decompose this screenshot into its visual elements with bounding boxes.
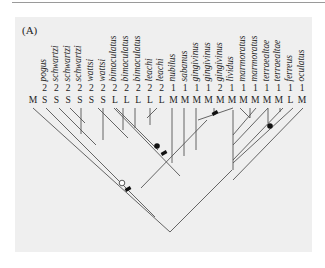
tree-branch (116, 108, 158, 150)
tree-branch (240, 108, 250, 118)
tree-branch (46, 108, 155, 217)
character-change-bar-icon (161, 150, 168, 156)
tree-branch (170, 170, 232, 232)
tree-branch (233, 108, 268, 145)
phylogenetic-tree (0, 0, 325, 268)
tree-branch (98, 108, 128, 138)
tree-branch (33, 108, 170, 232)
character-change-bar-icon (125, 186, 132, 192)
tree-branch (114, 108, 180, 176)
filled-circle-marker-icon (154, 143, 160, 149)
filled-circle-marker-icon (267, 123, 273, 129)
open-circle-marker-icon (119, 180, 125, 186)
tree-branch (141, 120, 207, 188)
tree-branch (233, 108, 283, 160)
tree-branch (147, 108, 157, 118)
